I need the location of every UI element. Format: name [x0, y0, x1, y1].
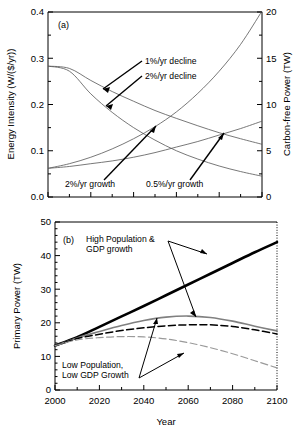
panel-a-right-ticks: 05101520 — [257, 6, 277, 202]
panel-a-y-ticklabel: 0.1 — [31, 145, 44, 156]
panel-b-y-ticklabel: 10 — [40, 351, 51, 362]
leader-05pct-growth — [190, 133, 224, 180]
annotation-low-pop-line2: Low GDP Growth — [62, 370, 129, 380]
arrowhead-high-pop-upper — [200, 249, 207, 254]
panel-b-x-ticklabel: 2060 — [178, 395, 199, 406]
panel-a-y2-axis-title: Carbon-free Power (TW) — [281, 52, 292, 156]
panel-a-y2-ticklabel: 5 — [266, 145, 271, 156]
panel-b: 01020304050 200020202040206020802100 Pri… — [11, 216, 288, 427]
panel-a-y-axis-title: Energy Intensity (W/($/yr)) — [5, 49, 16, 160]
panel-a-y-ticklabel: 0.3 — [31, 53, 44, 64]
panel-b-y-ticklabel: 50 — [40, 216, 51, 227]
annotation-high-pop-line1: High Population & — [86, 234, 155, 244]
panel-b-leaders — [139, 241, 207, 378]
panel-b-y-ticklabel: 20 — [40, 317, 51, 328]
panel-b-y-ticklabel: 40 — [40, 250, 51, 261]
panel-a-y-ticklabel: 0.0 — [31, 191, 44, 202]
panel-b-x-ticklabel: 2100 — [266, 395, 287, 406]
panel-a-curve-2 — [48, 11, 262, 168]
panel-b-x-axis-title: Year — [156, 416, 175, 427]
panel-b-y-ticks: 01020304050 — [40, 216, 60, 395]
panel-a-x-ticks — [48, 192, 262, 197]
annotation-high-pop-line2: GDP growth — [86, 244, 133, 254]
leader-2pct-growth — [104, 126, 156, 180]
panel-a-y-ticklabel: 0.2 — [31, 99, 44, 110]
figure-container: 0.00.10.20.30.4 05101520 Energy Intensit… — [0, 0, 300, 435]
panel-a-left-ticks: 0.00.10.20.30.4 — [31, 6, 53, 202]
panel-a-curves — [48, 11, 262, 176]
annotation-2pct-decline: 2%/yr decline — [145, 71, 197, 81]
panel-a-y2-ticklabel: 0 — [266, 191, 271, 202]
panel-a-y2-ticklabel: 15 — [266, 53, 277, 64]
leader-high-pop-lower — [168, 241, 196, 317]
panel-b-y-axis-title: Primary Power (TW) — [11, 263, 22, 349]
panel-a-label: (a) — [58, 20, 69, 30]
panel-b-y-ticklabel: 0 — [46, 384, 51, 395]
annotation-05pct-growth: 0.5%/yr growth — [146, 179, 204, 189]
annotation-1pct-decline: 1%/yr decline — [145, 56, 197, 66]
panel-a-y-ticklabel: 0.4 — [31, 6, 44, 17]
panel-b-x-ticks: 200020202040206020802100 — [44, 385, 287, 406]
annotation-low-pop-line1: Low Population, — [62, 360, 123, 370]
panel-a-curve-1 — [48, 66, 262, 176]
arrowhead-low-pop-lower — [177, 353, 184, 358]
panel-b-curve-0 — [55, 242, 277, 345]
panel-b-y-ticklabel: 30 — [40, 284, 51, 295]
annotation-2pct-growth: 2%/yr growth — [65, 179, 115, 189]
panel-b-x-ticklabel: 2020 — [89, 395, 110, 406]
panel-a: 0.00.10.20.30.4 05101520 Energy Intensit… — [5, 6, 292, 202]
panel-b-curves — [55, 242, 277, 368]
panel-b-x-ticklabel: 2040 — [133, 395, 154, 406]
figure-svg: 0.00.10.20.30.4 05101520 Energy Intensit… — [0, 0, 300, 435]
leader-1pct-decline — [103, 61, 142, 89]
panel-b-x-ticklabel: 2080 — [222, 395, 243, 406]
panel-b-x-ticklabel: 2000 — [44, 395, 65, 406]
panel-b-label: (b) — [63, 235, 74, 245]
panel-a-y2-ticklabel: 10 — [266, 99, 277, 110]
panel-a-y2-ticklabel: 20 — [266, 6, 277, 17]
